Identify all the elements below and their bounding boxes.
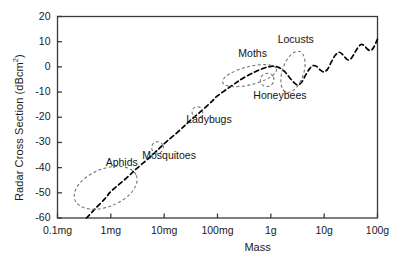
x-tick-label: 1g: [243, 224, 299, 236]
species-label: Ladybugs: [186, 113, 232, 125]
y-tick-label: 0: [25, 60, 51, 72]
x-tick-label: 1mg: [83, 224, 139, 236]
species-label: Locusts: [278, 33, 314, 45]
species-label: Honeybees: [253, 89, 306, 101]
y-tick-label: -40: [25, 161, 51, 173]
species-label: Mosquitoes: [142, 149, 196, 161]
y-tick-label: 20: [25, 10, 51, 22]
y-tick-label: 10: [25, 35, 51, 47]
x-axis-title: Mass: [244, 241, 270, 253]
y-tick-label: -60: [25, 211, 51, 223]
species-label: Aphids: [106, 156, 138, 168]
y-axis-title: Radar Cross Section (dBcm2): [13, 54, 25, 201]
species-label: Moths: [238, 47, 267, 59]
y-tick-label: -10: [25, 85, 51, 97]
x-tick-label: 100mg: [190, 224, 246, 236]
x-tick-label: 10mg: [136, 224, 192, 236]
x-tick-label: 0.1mg: [30, 224, 86, 236]
y-tick-label: -30: [25, 135, 51, 147]
x-tick-label: 100g: [350, 224, 402, 236]
y-tick-label: -20: [25, 110, 51, 122]
y-tick-label: -50: [25, 186, 51, 198]
radar-cross-section-chart: Radar Cross Section (dBcm2) Mass 20100-1…: [0, 0, 402, 272]
x-tick-label: 10g: [296, 224, 352, 236]
